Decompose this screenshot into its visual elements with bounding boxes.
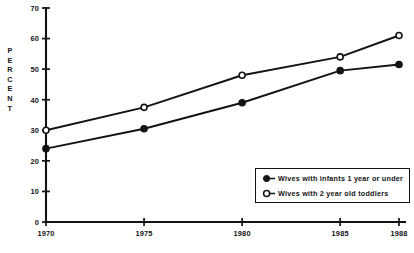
data-point-filled bbox=[239, 100, 245, 106]
y-tick-label: 40 bbox=[30, 96, 39, 105]
y-tick-label: 70 bbox=[30, 4, 39, 13]
data-point-open bbox=[43, 127, 49, 133]
y-tick-label: 0 bbox=[35, 218, 39, 227]
data-point-filled bbox=[396, 61, 402, 67]
y-tick-label: 10 bbox=[30, 187, 39, 196]
chart-legend: Wives with infants 1 year or under Wives… bbox=[255, 168, 410, 203]
y-tick-label: 30 bbox=[30, 126, 39, 135]
legend-item-toddlers: Wives with 2 year old toddlers bbox=[262, 188, 388, 199]
x-tick-label: 1985 bbox=[332, 229, 349, 238]
open-circle-icon bbox=[262, 188, 277, 199]
series-line-0 bbox=[46, 65, 399, 149]
series-layer bbox=[43, 33, 402, 152]
series-line-1 bbox=[46, 36, 399, 131]
data-point-open bbox=[396, 33, 402, 39]
chart-container: PERCENT 010203040506070 1970197519801985… bbox=[0, 0, 414, 253]
legend-label-toddlers: Wives with 2 year old toddlers bbox=[278, 189, 388, 198]
data-point-open bbox=[141, 104, 147, 110]
data-point-filled bbox=[141, 126, 147, 132]
y-tick-label: 20 bbox=[30, 157, 39, 166]
y-tick-label: 50 bbox=[30, 65, 39, 74]
x-tick-label: 1988 bbox=[390, 229, 407, 238]
legend-label-infants: Wives with infants 1 year or under bbox=[278, 174, 403, 183]
data-point-filled bbox=[337, 67, 343, 73]
x-tick-label: 1970 bbox=[37, 229, 54, 238]
y-tick-label: 60 bbox=[30, 34, 39, 43]
filled-circle-icon bbox=[262, 173, 277, 184]
x-axis: 19701975198019851988 bbox=[37, 218, 407, 238]
data-point-open bbox=[239, 72, 245, 78]
legend-item-infants: Wives with infants 1 year or under bbox=[262, 173, 403, 184]
y-axis: 010203040506070 bbox=[30, 4, 50, 227]
data-point-filled bbox=[43, 145, 49, 151]
data-point-open bbox=[337, 54, 343, 60]
x-tick-label: 1980 bbox=[233, 229, 250, 238]
line-chart-plot: 010203040506070 19701975198019851988 bbox=[0, 0, 414, 253]
x-tick-label: 1975 bbox=[135, 229, 152, 238]
